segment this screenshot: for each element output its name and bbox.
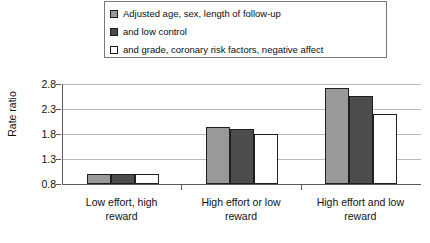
legend-swatch-icon [110,28,118,36]
x-axis-category-label-line: Low effort, high [62,195,181,209]
y-axis-tick-mark [56,184,61,185]
y-axis-tick-label: 1.3 [8,154,56,164]
x-axis-category-label: High effort and lowreward [301,195,420,223]
y-axis-tick-label: 1.8 [8,129,56,139]
x-axis-category-label-line: High effort and low [301,195,420,209]
x-axis-category-label: Low effort, highreward [62,195,181,223]
legend-item-label: and grade, coronary risk factors, negati… [123,44,324,55]
plot-area [62,84,421,185]
y-axis-tick-mark [56,159,61,160]
bar [349,96,373,184]
legend-item-label: Adjusted age, sex, length of follow-up [123,8,281,19]
x-axis-tick-marks [62,185,421,191]
legend-item-label: and low control [123,26,187,37]
legend-item: and grade, coronary risk factors, negati… [110,41,381,58]
chart-legend: Adjusted age, sex, length of follow-up a… [104,1,387,58]
legend-swatch-icon [110,46,118,54]
y-axis-tick-mark [56,134,61,135]
bar [135,174,159,184]
legend-swatch-icon [110,10,118,18]
x-axis-category-label-line: High effort or low [181,195,300,209]
y-axis-tick-label: 0.8 [8,179,56,189]
gridline [63,84,421,85]
y-axis-tick-mark [56,109,61,110]
x-axis-category-label-line: reward [181,209,300,223]
bar [254,134,278,184]
legend-item: and low control [110,23,381,40]
y-axis-tick-mark [56,84,61,85]
legend-item: Adjusted age, sex, length of follow-up [110,5,381,22]
bar [206,127,230,185]
y-axis-tick-labels: 0.81.31.82.32.8 [4,84,56,184]
x-axis-tick-mark [301,185,302,190]
y-axis-tick-label: 2.8 [8,79,56,89]
x-axis-tick-mark [181,185,182,190]
bar [87,174,111,184]
bar [325,88,349,184]
bar [373,114,397,184]
x-axis-category-label: High effort or lowreward [181,195,300,223]
x-axis-category-label-line: reward [62,209,181,223]
y-axis-tick-label: 2.3 [8,104,56,114]
bar [230,129,254,184]
x-axis-category-label-line: reward [301,209,420,223]
bar [111,174,135,184]
